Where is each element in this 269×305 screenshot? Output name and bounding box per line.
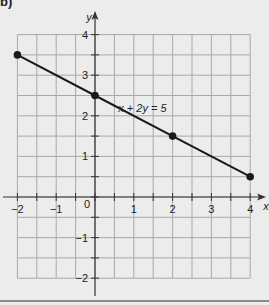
data-point xyxy=(14,51,22,59)
x-tick-label: −2 xyxy=(11,203,24,215)
x-tick-label: 0 xyxy=(84,198,90,210)
bottom-divider xyxy=(0,300,269,302)
y-axis-label: y xyxy=(85,11,93,23)
x-tick-label: −1 xyxy=(50,203,63,215)
equation-label: x + 2y = 5 xyxy=(117,102,167,114)
y-tick-label: −1 xyxy=(75,232,88,244)
line-chart: xy−2−101234−2−11234x + 2y = 5 xyxy=(0,0,269,305)
x-tick-label: 2 xyxy=(170,203,176,215)
y-tick-label: 2 xyxy=(82,110,88,122)
data-point xyxy=(246,173,254,181)
x-tick-label: 1 xyxy=(131,203,137,215)
x-tick-label: 3 xyxy=(208,203,214,215)
data-point xyxy=(91,92,99,100)
x-tick-label: 4 xyxy=(247,203,253,215)
y-tick-label: 1 xyxy=(82,150,88,162)
data-point xyxy=(169,132,177,140)
x-axis-label: x xyxy=(262,200,269,212)
y-tick-label: −2 xyxy=(75,272,88,284)
y-tick-label: 3 xyxy=(82,69,88,81)
y-tick-label: 4 xyxy=(82,29,88,41)
